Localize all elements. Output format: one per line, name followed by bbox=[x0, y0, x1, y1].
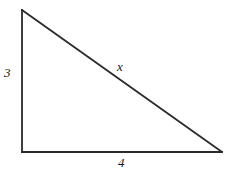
triangle-shape bbox=[0, 0, 229, 171]
hypotenuse-label: x bbox=[117, 60, 123, 73]
hypotenuse-line bbox=[22, 10, 222, 152]
geometry-figure: 3 x 4 bbox=[0, 0, 229, 171]
horizontal-leg-label: 4 bbox=[118, 156, 125, 169]
vertical-leg-label: 3 bbox=[4, 66, 11, 79]
